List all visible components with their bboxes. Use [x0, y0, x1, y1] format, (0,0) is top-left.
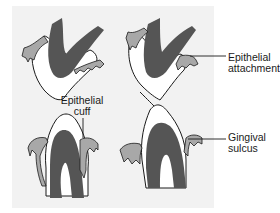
epithelial-attachment-label: Epithelial attachment	[228, 52, 280, 74]
label-line-2: cuff	[57, 106, 107, 117]
label-line-2: attachment	[228, 63, 280, 74]
epithelial-cuff-label: Epithelial cuff	[57, 95, 107, 117]
tooth-eruption-diagram	[0, 0, 280, 213]
top-left-tooth	[22, 18, 104, 100]
label-line-2: sulcus	[228, 143, 266, 154]
gingival-sulcus-label: Gingival sulcus	[228, 132, 266, 154]
bottom-left-tooth	[28, 114, 98, 198]
top-right-tooth	[126, 18, 226, 100]
bottom-right-tooth	[120, 105, 226, 188]
